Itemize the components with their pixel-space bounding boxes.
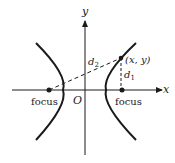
- left-focus-point: [47, 88, 52, 93]
- d1-subscript: 1: [130, 74, 134, 82]
- x-axis-label: x: [163, 83, 170, 96]
- left-focus-label: focus: [31, 96, 58, 107]
- origin-label: O: [73, 94, 82, 107]
- right-focus-label: focus: [115, 96, 142, 107]
- y-axis-label: y: [81, 5, 89, 18]
- point-on-hyperbola: [119, 56, 124, 61]
- point-label: (x, y): [125, 54, 151, 65]
- d2-subscript: 2: [94, 61, 98, 69]
- distance-d2-label: d2: [88, 56, 99, 69]
- distance-d1-label: d1: [124, 69, 135, 82]
- right-focus-point: [120, 88, 125, 93]
- hyperbola-diagram: y x O focus focus (x, y) d2 d1: [0, 0, 175, 163]
